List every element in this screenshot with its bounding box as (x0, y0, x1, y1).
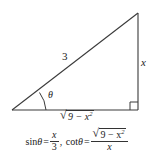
cot-radical-sign-icon: √ (93, 127, 100, 139)
sqrt-group: √ 9 − x2 (60, 110, 94, 122)
sin-function-name: sin (26, 136, 38, 147)
radicand-text: 9 − x (68, 111, 89, 122)
sin-fraction: x3 (50, 130, 59, 153)
opposite-side-label: x (141, 57, 146, 68)
hypotenuse-line (12, 13, 138, 110)
equation-separator: , (59, 136, 64, 147)
radical-sign-icon: √ (60, 109, 67, 121)
cot-function-name: cot (66, 136, 78, 147)
sin-denominator: 3 (50, 142, 59, 153)
cot-radicand: 9 − x2 (99, 128, 127, 141)
hypotenuse-label: 3 (62, 51, 68, 62)
cot-sqrt-group: √9 − x2 (93, 128, 127, 141)
sin-equals-sign: = (42, 136, 50, 147)
cot-radicand-text: 9 − x (101, 129, 122, 140)
cot-numerator: √9 − x2 (91, 128, 129, 142)
cot-equals-sign: = (83, 136, 91, 147)
theta-arc-icon (40, 93, 47, 111)
radicand: 9 − x2 (66, 110, 94, 122)
cot-fraction: √9 − x2x (91, 128, 129, 153)
cot-radicand-exponent: 2 (121, 128, 124, 135)
theta-angle-label: θ (48, 90, 53, 100)
equation-line: sinθ=x3, cotθ=√9 − x2x (0, 128, 154, 153)
cot-denominator: x (91, 142, 129, 153)
adjacent-side-label: √ 9 − x2 (60, 110, 94, 122)
right-angle-marker-icon (130, 102, 138, 110)
radicand-exponent: 2 (89, 110, 92, 117)
